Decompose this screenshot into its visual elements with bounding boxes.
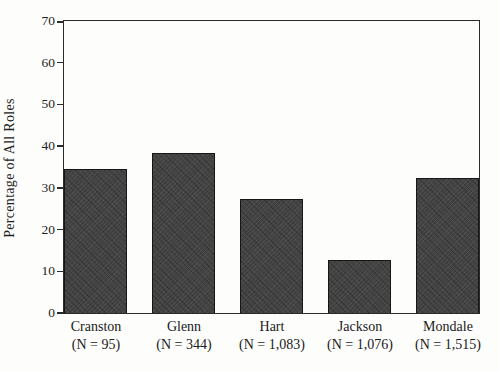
x-label-hart: Hart(N = 1,083) bbox=[239, 318, 305, 353]
y-tick-label-20: 20 bbox=[25, 222, 55, 238]
y-tick-mark-10 bbox=[57, 271, 63, 273]
y-tick-label-40: 40 bbox=[25, 138, 55, 154]
y-tick-label-0: 0 bbox=[25, 305, 55, 321]
y-tick-mark-20 bbox=[57, 229, 63, 231]
bar-cranston bbox=[64, 169, 127, 313]
bar-hart bbox=[240, 199, 303, 313]
y-tick-mark-0 bbox=[57, 312, 63, 314]
y-tick-label-70: 70 bbox=[25, 13, 55, 29]
y-tick-mark-70 bbox=[57, 21, 63, 23]
plot-area: 010203040506070 bbox=[63, 20, 480, 314]
y-tick-mark-60 bbox=[57, 62, 63, 64]
category-name: Hart bbox=[239, 318, 305, 336]
x-label-cranston: Cranston(N = 95) bbox=[71, 318, 122, 353]
bar-mondale bbox=[416, 178, 479, 313]
y-tick-label-50: 50 bbox=[25, 96, 55, 112]
y-tick-mark-40 bbox=[57, 145, 63, 147]
x-label-jackson: Jackson(N = 1,076) bbox=[327, 318, 393, 353]
y-axis-label: Percentage of All Roles bbox=[2, 98, 18, 237]
category-n-count: (N = 1,083) bbox=[239, 336, 305, 354]
category-name: Jackson bbox=[327, 318, 393, 336]
category-n-count: (N = 1,076) bbox=[327, 336, 393, 354]
x-axis-labels: Cranston(N = 95)Glenn(N = 344)Hart(N = 1… bbox=[65, 318, 480, 358]
bar-glenn bbox=[152, 153, 215, 313]
y-tick-label-60: 60 bbox=[25, 55, 55, 71]
category-name: Cranston bbox=[71, 318, 122, 336]
category-n-count: (N = 1,515) bbox=[415, 336, 481, 354]
category-n-count: (N = 344) bbox=[156, 336, 211, 354]
category-name: Mondale bbox=[415, 318, 481, 336]
x-label-glenn: Glenn(N = 344) bbox=[156, 318, 211, 353]
x-label-mondale: Mondale(N = 1,515) bbox=[415, 318, 481, 353]
bar-jackson bbox=[328, 260, 391, 313]
y-tick-label-30: 30 bbox=[25, 180, 55, 196]
category-n-count: (N = 95) bbox=[71, 336, 122, 354]
y-tick-mark-30 bbox=[57, 187, 63, 189]
bar-chart-figure: Percentage of All Roles 010203040506070 … bbox=[0, 0, 499, 372]
y-tick-mark-50 bbox=[57, 104, 63, 106]
y-tick-label-10: 10 bbox=[25, 263, 55, 279]
category-name: Glenn bbox=[156, 318, 211, 336]
